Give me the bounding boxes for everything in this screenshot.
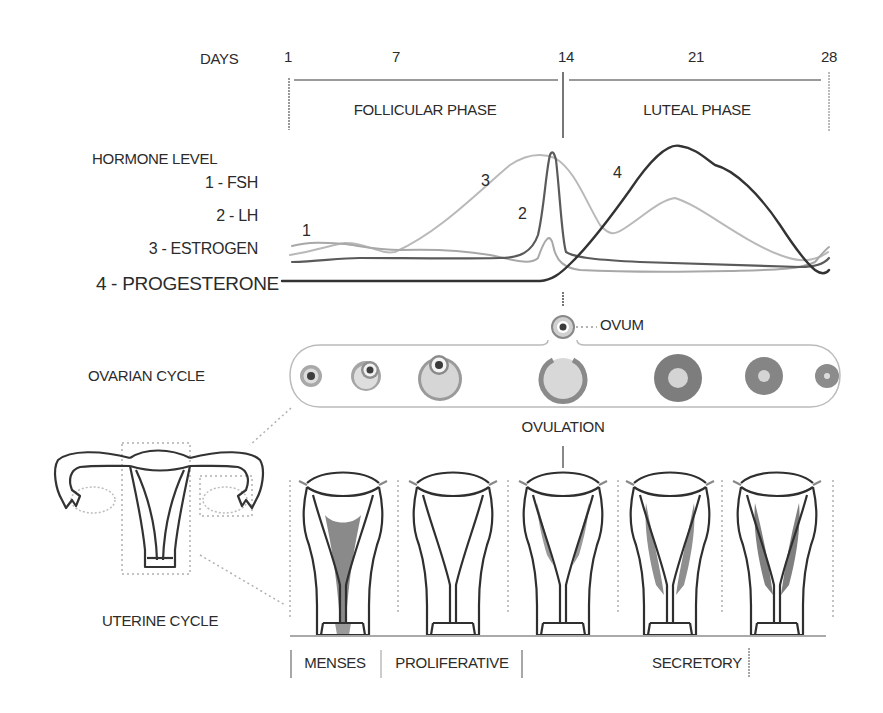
progesterone-curve [282, 146, 829, 281]
day-tick-14: 14 [558, 48, 574, 65]
legend-lh: 2 - LH [216, 207, 258, 225]
corpus-albicans-icon [815, 364, 839, 388]
lh-curve [292, 152, 829, 267]
day-tick-7: 7 [392, 48, 400, 65]
secretory-label: SECRETORY [652, 654, 742, 671]
ovulation-label: OVULATION [522, 418, 605, 435]
fsh-curve [292, 238, 829, 272]
legend-fsh: 1 - FSH [205, 174, 258, 192]
days-axis-label: DAYS [200, 50, 239, 67]
uterine-stage-proliferative-late [519, 473, 607, 636]
hormone-level-title: HORMONE LEVEL [92, 150, 217, 167]
curve-marker-4: 4 [613, 164, 622, 182]
ovarian-cycle-label: OVARIAN CYCLE [88, 367, 205, 384]
luteal-phase-label: LUTEAL PHASE [643, 101, 751, 118]
day-tick-1: 1 [284, 48, 292, 65]
uterine-cycle-label: UTERINE CYCLE [102, 612, 218, 629]
ovum-label: OVUM [600, 316, 644, 333]
regressing-corpus-luteum-icon [745, 357, 783, 395]
secondary-follicle-icon [351, 361, 381, 391]
curve-marker-3: 3 [481, 172, 490, 190]
ruptured-follicle-icon [541, 358, 585, 402]
estrogen-curve [290, 155, 828, 260]
follicular-phase-label: FOLLICULAR PHASE [354, 101, 497, 118]
uterine-stage-secretory-early [626, 473, 714, 636]
uterine-stage-menses [299, 473, 387, 636]
primary-follicle-icon [300, 365, 322, 387]
mature-follicle-icon [418, 355, 462, 401]
day-tick-28: 28 [821, 48, 837, 65]
uterine-stage-proliferative-early [409, 473, 497, 636]
uterine-stage-secretory-late [733, 473, 821, 636]
proliferative-label: PROLIFERATIVE [395, 654, 508, 671]
curve-marker-1: 1 [302, 222, 311, 240]
menses-label: MENSES [304, 654, 366, 671]
hormone-curves [282, 146, 829, 281]
corpus-luteum-icon [654, 354, 702, 402]
legend-estrogen: 3 - ESTROGEN [149, 240, 258, 258]
legend-progesterone: 4 - PROGESTERONE [96, 273, 279, 295]
day-tick-21: 21 [688, 48, 704, 65]
ovum-icon [552, 316, 597, 338]
ovarian-follicles [300, 354, 839, 402]
uterus-overview-icon [55, 451, 263, 568]
curve-marker-2: 2 [518, 205, 527, 223]
